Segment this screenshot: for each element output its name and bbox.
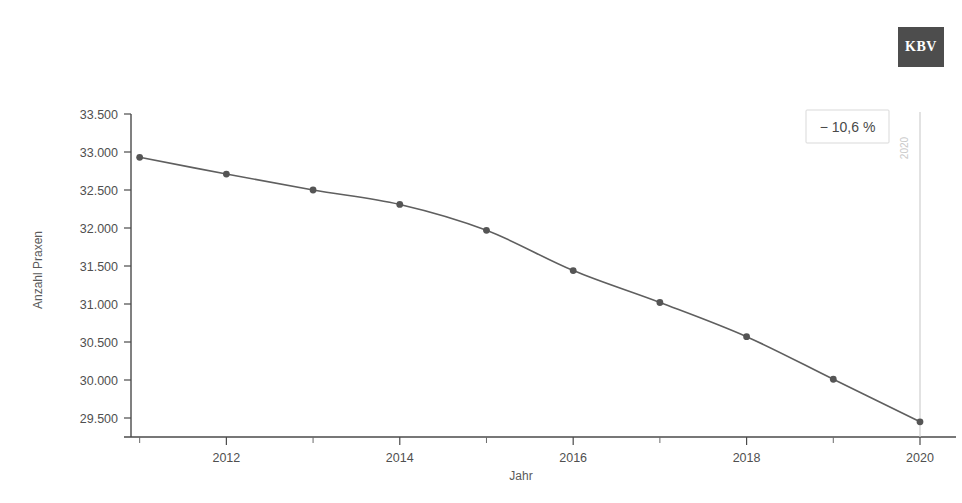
data-line bbox=[140, 157, 920, 421]
data-point-markers bbox=[136, 154, 923, 425]
x-tick-label: 2016 bbox=[559, 451, 587, 465]
x-tick-label: 2014 bbox=[386, 451, 414, 465]
x-tick-label: 2012 bbox=[212, 451, 240, 465]
change-annotation: − 10,6 % bbox=[806, 110, 889, 143]
chart-figure: KBV 29.50030.00030.50031.00031.50032.000… bbox=[0, 0, 962, 503]
y-tick-label: 31.500 bbox=[80, 260, 118, 274]
kbv-logo: KBV bbox=[898, 27, 944, 67]
x-tick-marks bbox=[140, 437, 920, 445]
y-axis: 29.50030.00030.50031.00031.50032.00032.5… bbox=[31, 108, 131, 438]
data-point bbox=[483, 227, 490, 234]
y-tick-labels: 29.50030.00030.50031.00031.50032.00032.5… bbox=[80, 108, 118, 426]
data-point bbox=[830, 376, 837, 383]
annotation-label: − 10,6 % bbox=[820, 119, 876, 135]
x-tick-label: 2018 bbox=[733, 451, 761, 465]
data-point bbox=[223, 171, 230, 178]
data-point bbox=[743, 333, 750, 340]
y-tick-label: 32.000 bbox=[80, 222, 118, 236]
data-point bbox=[570, 267, 577, 274]
line-chart-plot: 29.50030.00030.50031.00031.50032.00032.5… bbox=[0, 0, 962, 503]
y-tick-label: 32.500 bbox=[80, 184, 118, 198]
data-point bbox=[917, 418, 924, 425]
data-point bbox=[396, 201, 403, 208]
y-axis-title: Anzahl Praxen bbox=[31, 231, 45, 309]
reference-line-label: 2020 bbox=[899, 136, 910, 159]
data-point bbox=[310, 187, 317, 194]
x-tick-labels: 20122014201620182020 bbox=[212, 451, 933, 465]
data-point bbox=[656, 299, 663, 306]
y-tick-label: 33.500 bbox=[80, 108, 118, 122]
x-axis-title: Jahr bbox=[509, 469, 532, 483]
data-point bbox=[136, 154, 143, 161]
y-tick-label: 30.000 bbox=[80, 374, 118, 388]
y-tick-marks bbox=[124, 114, 131, 418]
y-tick-label: 30.500 bbox=[80, 336, 118, 350]
x-tick-label: 2020 bbox=[906, 451, 934, 465]
y-tick-label: 29.500 bbox=[80, 412, 118, 426]
y-tick-label: 31.000 bbox=[80, 298, 118, 312]
reference-line-2020: 2020 bbox=[899, 112, 920, 437]
kbv-logo-text: KBV bbox=[905, 40, 937, 54]
y-tick-label: 33.000 bbox=[80, 146, 118, 160]
x-axis: 20122014201620182020 Jahr bbox=[124, 437, 956, 483]
